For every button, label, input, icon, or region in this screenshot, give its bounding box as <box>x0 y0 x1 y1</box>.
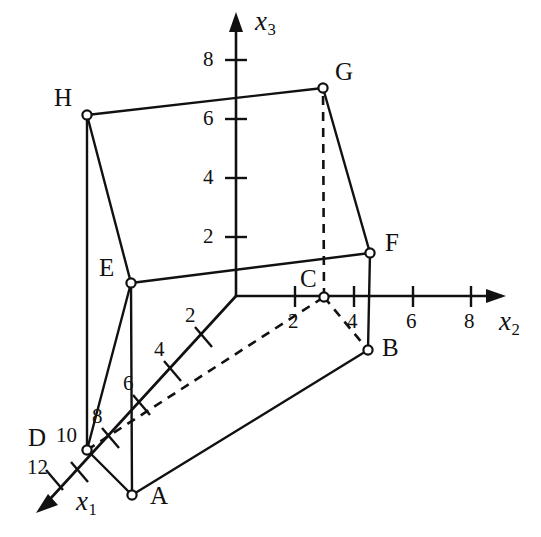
edge-C-G <box>323 88 324 297</box>
axis-label-x2: x2 <box>499 308 520 338</box>
axis-x2-arrowhead <box>486 289 506 303</box>
vertex-marker-B <box>363 345 372 354</box>
hidden-edges <box>87 88 368 450</box>
tick-label-x1-6: 6 <box>123 373 134 394</box>
axis-label-x1: x1 <box>76 488 97 518</box>
coordinate-diagram-svg <box>0 0 541 537</box>
axis-x3 <box>225 12 247 296</box>
tick-label-x3-2: 2 <box>203 226 214 247</box>
tick-label-x3-4: 4 <box>203 167 214 188</box>
vertex-marker-H <box>82 110 91 119</box>
axis-label-x1-sub: 1 <box>88 500 96 519</box>
edge-C-B <box>324 297 368 350</box>
tick-label-x1-2: 2 <box>185 305 196 326</box>
vertex-marker-D <box>82 445 91 454</box>
tick-label-x2-2: 2 <box>288 311 299 332</box>
tick-label-x1-8: 8 <box>92 406 103 427</box>
tick-label-x1-4: 4 <box>154 339 165 360</box>
axis-x3-arrowhead <box>229 12 243 32</box>
edge-E-F <box>131 253 370 283</box>
tick-label-x3-6: 6 <box>203 108 214 129</box>
axis-x1 <box>36 296 236 513</box>
vertex-label-D: D <box>28 425 46 450</box>
vertex-marker-C <box>319 292 328 301</box>
vertex-markers <box>82 83 374 499</box>
axis-label-x3-sub: 3 <box>267 20 275 39</box>
vertex-label-F: F <box>385 230 399 255</box>
tick-label-x1-10: 10 <box>56 425 77 446</box>
vertex-marker-A <box>127 490 136 499</box>
vertex-label-E: E <box>99 255 114 280</box>
vertex-marker-G <box>318 83 327 92</box>
axis-label-x2-text: x <box>499 306 511 336</box>
vertex-marker-E <box>126 278 135 287</box>
axis-x1-arrowhead <box>36 494 58 513</box>
axis-x1-line <box>51 296 236 498</box>
vertex-marker-F <box>365 248 374 257</box>
vertex-label-A: A <box>150 483 168 508</box>
visible-edges <box>87 88 370 495</box>
tick-x1-12 <box>46 470 63 490</box>
axis-label-x3: x3 <box>255 8 276 38</box>
axis-x2 <box>236 286 506 307</box>
vertex-label-G: G <box>335 59 353 84</box>
tick-label-x2-4: 4 <box>347 311 358 332</box>
tick-label-x1-12: 12 <box>27 457 48 478</box>
vertex-label-C: C <box>300 266 317 291</box>
edge-B-F <box>368 253 370 350</box>
figure-canvas: 8 6 4 2 2 4 6 8 2 4 6 8 10 12 x3 x2 x1 A… <box>0 0 541 537</box>
edge-F-G <box>323 88 370 253</box>
tick-label-x2-6: 6 <box>406 311 417 332</box>
tick-label-x2-8: 8 <box>464 311 475 332</box>
axis-label-x2-sub: 2 <box>511 320 519 339</box>
axis-label-x3-text: x <box>255 6 267 36</box>
vertex-label-B: B <box>382 335 399 360</box>
vertex-label-H: H <box>54 85 72 110</box>
axis-label-x1-text: x <box>76 486 88 516</box>
tick-label-x3-8: 8 <box>203 49 214 70</box>
